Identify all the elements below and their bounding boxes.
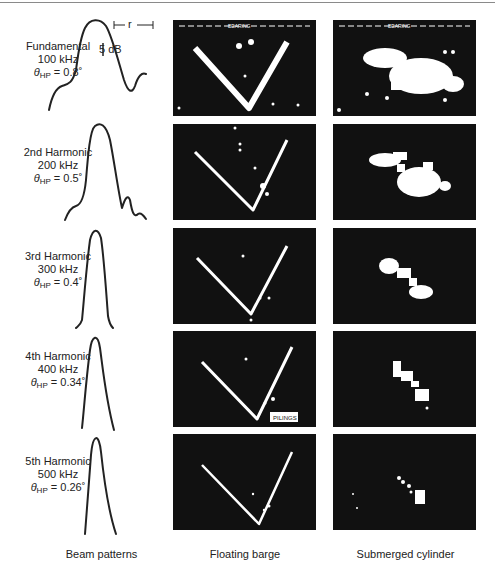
cylinder-panel-2nd-harmonic <box>333 124 476 220</box>
svg-text:r: r <box>128 18 132 30</box>
barge-panel-2nd-harmonic <box>173 124 316 220</box>
caption-floating-barge: Floating barge <box>190 548 300 560</box>
svg-text:BEARING: BEARING <box>388 23 411 29</box>
beam-pattern-curves: 5 dB r <box>0 0 170 575</box>
cylinder-panel-5th-harmonic <box>333 434 476 530</box>
caption-submerged-cylinder: Submerged cylinder <box>343 548 468 560</box>
svg-text:5 dB: 5 dB <box>99 43 122 55</box>
barge-panel-5th-harmonic <box>173 434 316 530</box>
barge-panel-3rd-harmonic <box>173 228 316 324</box>
cylinder-panel-3rd-harmonic <box>333 228 476 324</box>
svg-text:PILINGS: PILINGS <box>273 415 297 421</box>
caption-beam-patterns: Beam patterns <box>54 548 149 560</box>
barge-panel-fundamental: BEARING <box>173 20 316 116</box>
svg-text:BEARING: BEARING <box>228 23 251 29</box>
cylinder-panel-fundamental: BEARING <box>333 20 476 116</box>
cylinder-panel-4th-harmonic <box>333 331 476 427</box>
barge-panel-4th-harmonic: PILINGS <box>173 331 316 427</box>
